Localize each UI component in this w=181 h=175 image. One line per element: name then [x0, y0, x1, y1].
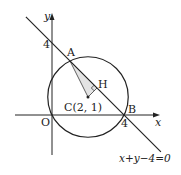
point-B-label: B [128, 103, 136, 116]
x-tick-label: 4 [121, 117, 128, 130]
point-C-label: C(2, 1) [64, 101, 102, 114]
y-axis-label: y [43, 10, 51, 23]
point-H-label: H [98, 78, 108, 91]
circle-line-diagram: y x O 4 4 A B H C(2, 1) x+y−4=0 [0, 0, 181, 175]
triangle-ACH [70, 61, 97, 97]
origin-label: O [41, 116, 50, 129]
center-point-C [87, 96, 90, 99]
y-tick-label: 4 [43, 38, 50, 51]
x-axis-label: x [155, 116, 162, 129]
y-axis-arrow-icon [50, 13, 55, 20]
point-A-label: A [66, 46, 76, 59]
line-equation-label: x+y−4=0 [119, 152, 171, 164]
